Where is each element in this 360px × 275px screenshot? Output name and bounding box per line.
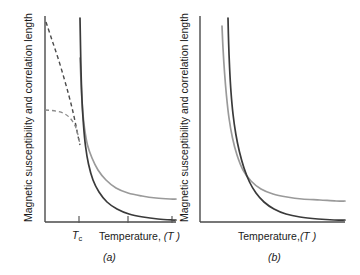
panel-a-x-axis-label: Temperature, (T ) [99,231,180,242]
panel-a-x-axis-variable: (T ) [164,230,180,242]
panel-b-y-axis-label: Magnetic susceptibility and correlation … [178,13,190,222]
panel-b-x-axis-text: Temperature, [238,230,300,242]
panel-a-caption: (a) [103,252,116,263]
panel-b-x-axis-variable: (T ) [300,230,316,242]
panel-b-caption: (b) [268,252,281,263]
panel-a-x-axis-text: Temperature, [99,230,161,242]
curve-correlation-length-rounded [222,26,345,201]
tc-subscript: c [78,234,82,243]
panel-b-group [200,16,345,222]
figure-container: Magnetic susceptibility and correlation … [0,0,360,275]
curve-susceptibility-above-Tc [80,18,176,220]
panel-a-group [45,16,176,223]
curve-correlation-length-above-Tc [80,58,176,199]
panel-b-x-axis-label: Temperature,(T ) [238,231,316,242]
curve-correlation-length-below-Tc-dashed [45,110,80,145]
panel-a-tc-annotation: Tc [72,230,82,241]
panel-a-y-axis-label: Magnetic susceptibility and correlation … [22,13,34,222]
curve-susceptibility-rounded [228,18,345,220]
